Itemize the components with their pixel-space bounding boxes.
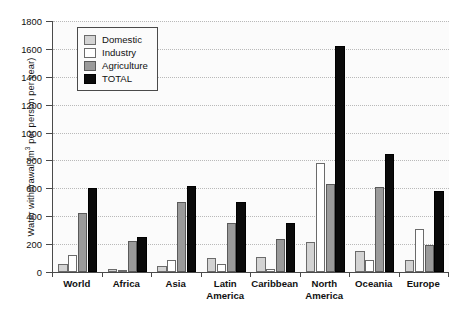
y-axis-tick (46, 77, 52, 78)
bar-domestic (157, 266, 166, 272)
x-axis-label-oceania: Oceania (349, 278, 399, 290)
legend-label: Domestic (102, 34, 142, 45)
legend-label: TOTAL (102, 73, 132, 84)
y-axis-label: 800 (0, 155, 42, 166)
bar-industry (415, 229, 424, 272)
y-axis-tick (46, 49, 52, 50)
bar-agriculture (276, 239, 285, 272)
y-axis-title-exponent: 3 (24, 146, 31, 150)
bar-total (434, 191, 443, 272)
bar-domestic (355, 251, 364, 272)
bar-agriculture (78, 213, 87, 272)
bar-domestic (405, 260, 414, 272)
y-axis-tick (46, 21, 52, 22)
x-axis-tick (102, 272, 103, 277)
x-axis-label-world: World (52, 278, 102, 290)
legend-swatch-industry-icon (84, 48, 96, 58)
bar-total (385, 154, 394, 272)
x-axis-label-latin-america: Latin America (201, 278, 251, 301)
bar-total (88, 188, 97, 272)
bar-agriculture (326, 184, 335, 272)
bar-domestic (108, 269, 117, 272)
legend-label: Agriculture (102, 60, 148, 71)
bar-agriculture (227, 223, 236, 272)
legend-item-total: TOTAL (84, 72, 148, 85)
bar-agriculture (425, 245, 434, 272)
x-axis-tick (448, 272, 449, 277)
x-axis-label-north-america: North America (300, 278, 350, 301)
x-axis-tick (250, 272, 251, 277)
bar-industry (365, 260, 374, 272)
legend-item-agriculture: Agriculture (84, 59, 148, 72)
legend-label: Industry (102, 47, 136, 58)
bar-agriculture (375, 187, 384, 272)
x-axis-tick (300, 272, 301, 277)
bar-domestic (256, 257, 265, 272)
chart-legend: DomesticIndustryAgricultureTOTAL (77, 27, 158, 91)
bar-industry (167, 260, 176, 272)
y-axis-label: 1600 (0, 43, 42, 54)
legend-swatch-agriculture-icon (84, 61, 96, 71)
y-axis-tick (46, 188, 52, 189)
bar-domestic (207, 258, 216, 272)
x-axis-tick (399, 272, 400, 277)
y-axis-label: 1800 (0, 16, 42, 27)
bar-industry (118, 270, 127, 272)
bar-total (187, 186, 196, 272)
bar-agriculture (177, 202, 186, 272)
bar-domestic (58, 264, 67, 272)
bar-industry (217, 264, 226, 272)
x-axis-label-caribbean: Caribbean (250, 278, 300, 290)
legend-item-industry: Industry (84, 46, 148, 59)
water-withdrawal-bar-chart: Water withdrawal (m3 per person per year… (0, 0, 463, 316)
bar-industry (266, 269, 275, 272)
y-axis-label: 1000 (0, 127, 42, 138)
y-axis-label: 1200 (0, 99, 42, 110)
x-axis-label-europe: Europe (399, 278, 449, 290)
bar-total (286, 223, 295, 272)
x-axis-label-africa: Africa (102, 278, 152, 290)
x-axis-label-asia: Asia (151, 278, 201, 290)
bar-industry (68, 255, 77, 272)
bar-agriculture (128, 241, 137, 272)
y-axis-label: 400 (0, 211, 42, 222)
y-axis-label: 0 (0, 267, 42, 278)
legend-swatch-domestic-icon (84, 35, 96, 45)
y-axis-tick (46, 133, 52, 134)
y-axis-label: 600 (0, 183, 42, 194)
x-axis-tick (349, 272, 350, 277)
y-axis-tick (46, 244, 52, 245)
bar-total (335, 46, 344, 272)
x-axis-tick (151, 272, 152, 277)
bar-domestic (306, 242, 315, 272)
x-axis-tick (201, 272, 202, 277)
y-axis-tick (46, 105, 52, 106)
bar-total (236, 202, 245, 272)
bar-industry (316, 163, 325, 272)
y-axis-label: 1400 (0, 71, 42, 82)
y-axis-label: 200 (0, 239, 42, 250)
x-axis-tick (52, 272, 53, 277)
y-axis-tick (46, 160, 52, 161)
bar-total (137, 237, 146, 272)
y-axis-tick (46, 216, 52, 217)
legend-item-domestic: Domestic (84, 33, 148, 46)
legend-swatch-total-icon (84, 74, 96, 84)
